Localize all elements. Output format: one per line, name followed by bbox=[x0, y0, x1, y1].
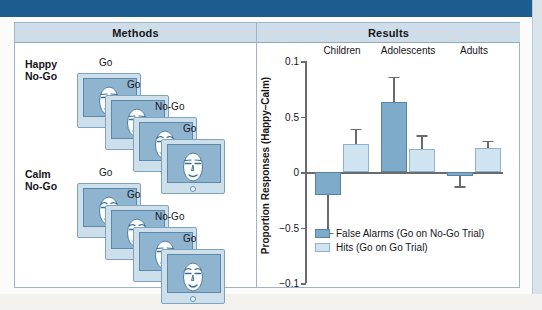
y-axis-title: Proportion Responses (Happy–Calm) bbox=[259, 43, 273, 288]
monitor-power-dot-icon bbox=[190, 186, 196, 192]
error-bar bbox=[421, 135, 422, 148]
error-bar-cap bbox=[417, 135, 428, 136]
y-axis-tick-label: −0.1 bbox=[279, 278, 299, 289]
bar-children-false-alarms bbox=[315, 172, 341, 195]
bar-adolescents-false-alarms bbox=[381, 102, 407, 172]
trial-label: No-Go bbox=[155, 211, 184, 222]
results-panel-body: Proportion Responses (Happy–Calm) 0.10.5… bbox=[257, 43, 520, 288]
trial-label: No-Go bbox=[155, 101, 184, 112]
error-bar bbox=[393, 77, 394, 103]
y-axis-tick bbox=[301, 228, 306, 230]
y-axis-tick-label: −0.5 bbox=[279, 222, 299, 233]
error-bar-cap bbox=[389, 77, 400, 78]
stimulus-monitor bbox=[161, 249, 225, 304]
y-axis-tick-label: 0 bbox=[293, 167, 299, 178]
legend-label: False Alarms (Go on No-Go Trial) bbox=[336, 228, 484, 239]
legend-label: Hits (Go on Go Trial) bbox=[336, 242, 428, 253]
bar-adolescents-hits bbox=[409, 149, 435, 172]
group-title-children: Children bbox=[323, 45, 360, 56]
y-axis-tick bbox=[301, 172, 306, 174]
page-right-edge bbox=[532, 0, 542, 310]
error-bar-cap bbox=[455, 186, 466, 187]
bar-children-hits bbox=[343, 144, 369, 172]
y-axis-title-text: Proportion Responses (Happy–Calm) bbox=[261, 77, 272, 254]
group-title-adolescents: Adolescents bbox=[381, 45, 435, 56]
y-axis-tick-label: 0.5 bbox=[285, 111, 299, 122]
methods-panel: Methods Happy No-Go Calm No-Go GoGoNo-Go… bbox=[15, 23, 257, 287]
chart-legend: False Alarms (Go on No-Go Trial)Hits (Go… bbox=[315, 228, 484, 256]
happy-face-icon bbox=[180, 150, 206, 183]
trial-label: Go bbox=[99, 57, 112, 68]
monitor-power-dot-icon bbox=[190, 296, 196, 302]
calm-face-icon bbox=[180, 260, 206, 293]
legend-item: Hits (Go on Go Trial) bbox=[315, 242, 484, 253]
methods-panel-title: Methods bbox=[15, 23, 256, 43]
error-bar-cap bbox=[483, 141, 494, 142]
y-axis-tick-label: 0.1 bbox=[285, 56, 299, 67]
legend-swatch-hit bbox=[315, 243, 330, 252]
trial-label: Go bbox=[99, 167, 112, 178]
y-axis-tick bbox=[301, 283, 306, 285]
error-bar-cap bbox=[351, 129, 362, 130]
bar-chart: Proportion Responses (Happy–Calm) 0.10.5… bbox=[257, 43, 520, 288]
page-top-band bbox=[0, 0, 542, 17]
y-axis-tick bbox=[301, 61, 306, 63]
results-panel-title: Results bbox=[257, 23, 520, 43]
legend-item: False Alarms (Go on No-Go Trial) bbox=[315, 228, 484, 239]
legend-swatch-fa bbox=[315, 229, 330, 238]
error-bar bbox=[355, 129, 356, 145]
figure-container: Methods Happy No-Go Calm No-Go GoGoNo-Go… bbox=[14, 22, 520, 288]
trial-label: Go bbox=[127, 189, 140, 200]
trial-label: Go bbox=[183, 233, 196, 244]
page-bottom-edge bbox=[0, 294, 542, 310]
stimulus-monitor bbox=[161, 139, 225, 194]
trial-label: Go bbox=[183, 123, 196, 134]
scanned-page: Methods Happy No-Go Calm No-Go GoGoNo-Go… bbox=[0, 0, 542, 310]
trial-label: Go bbox=[127, 79, 140, 90]
y-axis-tick bbox=[301, 117, 306, 119]
results-panel: Results Proportion Responses (Happy–Calm… bbox=[257, 23, 520, 287]
group-title-adults: Adults bbox=[460, 45, 488, 56]
error-bar bbox=[459, 176, 460, 186]
bar-adults-hits bbox=[475, 148, 501, 172]
methods-panel-body: Happy No-Go Calm No-Go GoGoNo-GoGo GoGoN… bbox=[15, 43, 256, 288]
